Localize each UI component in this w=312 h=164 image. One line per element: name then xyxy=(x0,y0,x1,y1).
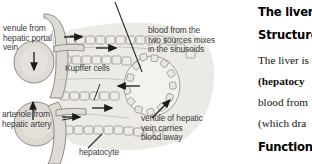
body-line-4: (which dra xyxy=(258,116,306,132)
liver-lobule-diagram: venule from hepatic portal vein Kupffer … xyxy=(0,0,218,164)
label-venule-hepatic-portal-vein: venule from hepatic portal vein xyxy=(3,24,52,53)
body-line-3: blood from xyxy=(258,95,308,111)
body-line-2: (hepatocy xyxy=(258,74,305,90)
body-line-2-bold: (hepatocy xyxy=(258,75,305,87)
label-venule-hepatic-vein: venule of hepatic vein carries blood awa… xyxy=(141,114,203,143)
label-blood-mixes-in-sinusoids: blood from the two sources mixes in the … xyxy=(148,26,215,55)
label-arteriole-hepatic-artery: arteriole from hepatic artery xyxy=(2,110,51,129)
label-hepatocyte: hepatocyte xyxy=(79,148,119,158)
page-title: The liver xyxy=(258,5,312,19)
article-text-column: The liver Structure The liver is (hepato… xyxy=(218,0,312,164)
page-root: venule from hepatic portal vein Kupffer … xyxy=(0,0,312,164)
section-heading-functions: Functions xyxy=(258,140,312,154)
body-line-1: The liver is xyxy=(258,53,309,69)
label-kupffer-cells: Kupffer cells xyxy=(65,64,110,74)
section-heading-structure: Structure xyxy=(258,28,312,42)
